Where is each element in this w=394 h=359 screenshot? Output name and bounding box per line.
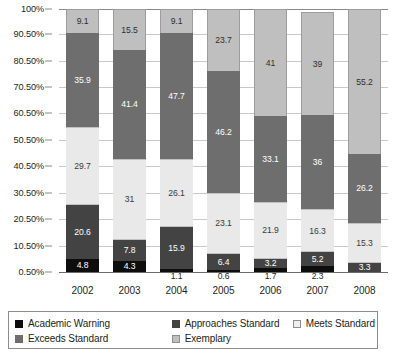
stacked-bar[interactable]: 6.423.146.223.7 — [207, 9, 240, 272]
x-axis-category-label: 2002 — [72, 285, 94, 297]
bar-segment-value: 16.3 — [309, 227, 325, 236]
bar-segment[interactable]: 46.2 — [207, 71, 240, 193]
bar-segment[interactable]: 41 — [254, 9, 287, 116]
y-axis-tick-mark — [45, 139, 52, 140]
stacked-bar[interactable]: 4.820.629.735.99.1 — [66, 9, 99, 272]
x-axis-category-label: 2003 — [119, 285, 141, 297]
bar-segment[interactable]: 23.7 — [207, 9, 240, 71]
x-axis-category-label: 2004 — [166, 285, 188, 297]
stacked-bar[interactable]: 4.37.83141.415.5 — [113, 9, 146, 272]
x-axis-category-label: 2005 — [213, 285, 235, 297]
stacked-bar[interactable]: 3.315.326.255.2 — [348, 9, 381, 272]
bar-segment-value: 3.2 — [265, 259, 277, 267]
bar-outside-value: 1.7 — [265, 272, 277, 283]
bar-segment[interactable]: 23.1 — [207, 193, 240, 254]
bar-segment[interactable]: 41.4 — [113, 50, 146, 159]
bar-segment-value: 5.2 — [312, 255, 324, 264]
bar-slot-2008: 3.315.326.255.2 — [341, 9, 388, 272]
y-axis-tick-label: 60.50% — [13, 109, 44, 118]
y-axis-tick-label: 40.50% — [13, 162, 44, 171]
bar-segment-value: 9.1 — [77, 17, 89, 26]
y-axis-tick-label: 0.50% — [18, 268, 44, 277]
legend-label: Exceeds Standard — [28, 333, 108, 344]
bar-segment[interactable]: 16.3 — [301, 209, 334, 252]
bar-segment[interactable]: 55.2 — [348, 9, 381, 154]
bar-segment-value: 15.5 — [121, 26, 137, 35]
y-axis-tick-mark — [45, 9, 52, 10]
bar-segment-value: 3.3 — [359, 263, 371, 272]
legend-label: Academic Warning — [28, 318, 110, 329]
bar-segment-value: 23.7 — [215, 36, 231, 45]
y-axis-tick-label: 90.50% — [13, 30, 44, 39]
y-axis-tick-label: 100% — [21, 5, 44, 14]
bar-segment[interactable]: 29.7 — [66, 127, 99, 205]
y-axis-tick-label: 70.50% — [13, 82, 44, 91]
legend-item[interactable]: Approaches Standard — [172, 316, 293, 331]
stacked-bar-chart: 100%90.50%80.50%70.50%60.50%50.50%40.50%… — [0, 0, 394, 359]
legend-item[interactable]: Exemplary — [172, 331, 293, 346]
stacked-bar[interactable]: 3.221.933.141 — [254, 9, 287, 272]
y-axis-tick-label: 30.50% — [13, 188, 44, 197]
legend-swatch-icon — [293, 320, 301, 328]
bar-segment[interactable]: 20.6 — [66, 205, 99, 259]
bar-segment-value: 31 — [125, 195, 134, 204]
stacked-bar[interactable]: 5.216.33639 — [301, 9, 334, 272]
legend-item[interactable]: Exceeds Standard — [15, 331, 172, 346]
bar-segment[interactable]: 26.1 — [160, 159, 193, 228]
legend-item[interactable]: Academic Warning — [15, 316, 172, 331]
bar-segment[interactable]: 15.5 — [113, 9, 146, 50]
bar-segment-value: 20.6 — [74, 228, 90, 237]
bar-segment[interactable]: 21.9 — [254, 202, 287, 259]
y-axis-tick-mark — [45, 60, 52, 61]
plot-wrapper: 100%90.50%80.50%70.50%60.50%50.50%40.50%… — [0, 0, 394, 305]
bar-slot-2002: 4.820.629.735.99.1 — [59, 9, 106, 272]
legend-label: Exemplary — [185, 333, 231, 344]
bar-group: 4.820.629.735.99.14.37.83141.415.515.926… — [59, 9, 388, 272]
bar-segment[interactable]: 26.2 — [348, 154, 381, 223]
bar-segment-value: 9.1 — [171, 17, 183, 26]
bar-segment-value: 7.8 — [124, 246, 136, 255]
y-axis: 100%90.50%80.50%70.50%60.50%50.50%40.50%… — [0, 0, 52, 272]
bar-segment[interactable]: 9.1 — [66, 9, 99, 33]
bar-segment-value: 15.3 — [356, 239, 372, 248]
plot-area: 4.820.629.735.99.14.37.83141.415.515.926… — [59, 9, 388, 272]
bar-segment[interactable]: 31 — [113, 159, 146, 241]
bar-segment-value: 41.4 — [121, 100, 137, 109]
bar-segment[interactable]: 5.2 — [301, 252, 334, 266]
bar-segment-value: 55.2 — [356, 78, 372, 87]
bar-segment-value: 4.3 — [124, 262, 136, 271]
bar-segment[interactable]: 39 — [301, 12, 334, 115]
x-axis-slot-2002: 2002 — [59, 272, 106, 305]
bar-segment[interactable]: 35.9 — [66, 33, 99, 127]
y-axis-tick-mark — [45, 192, 52, 193]
x-axis-category-label: 2008 — [354, 285, 376, 297]
bar-segment[interactable]: 7.8 — [113, 240, 146, 261]
y-axis-tick-label: 10.50% — [13, 241, 44, 250]
y-axis-tick-mark — [45, 86, 52, 87]
bar-segment-value: 6.4 — [218, 258, 230, 267]
bar-segment-value: 4.8 — [77, 261, 89, 270]
bar-slot-2003: 4.37.83141.415.5 — [106, 9, 153, 272]
bar-segment[interactable]: 47.7 — [160, 33, 193, 158]
bar-segment-value: 36 — [313, 158, 322, 167]
bar-segment[interactable]: 36 — [301, 115, 334, 210]
x-axis-slot-2007: 2.32007 — [294, 272, 341, 305]
stacked-bar[interactable]: 15.926.147.79.1 — [160, 9, 193, 272]
y-axis-tick-mark — [45, 166, 52, 167]
x-axis-slot-2005: 0.62005 — [200, 272, 247, 305]
legend-item[interactable]: Meets Standard — [293, 316, 371, 331]
y-axis-tick-mark — [45, 272, 52, 273]
x-axis-slot-2004: 1.12004 — [153, 272, 200, 305]
bar-segment[interactable]: 4.8 — [66, 259, 99, 272]
bar-segment-value: 15.9 — [168, 244, 184, 253]
bar-slot-2006: 3.221.933.141 — [247, 9, 294, 272]
bar-segment[interactable]: 9.1 — [160, 9, 193, 33]
bar-slot-2005: 6.423.146.223.7 — [200, 9, 247, 272]
bar-segment[interactable]: 3.3 — [348, 263, 381, 272]
bar-segment[interactable]: 33.1 — [254, 116, 287, 202]
bar-segment[interactable]: 6.4 — [207, 254, 240, 271]
bar-segment[interactable]: 3.2 — [254, 259, 287, 267]
bar-segment[interactable]: 4.3 — [113, 261, 146, 272]
bar-segment[interactable]: 15.9 — [160, 227, 193, 269]
bar-segment[interactable]: 15.3 — [348, 223, 381, 263]
